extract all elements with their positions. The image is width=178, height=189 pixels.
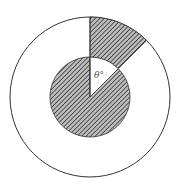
concentric-circles-diagram: θ°: [0, 0, 178, 189]
angle-theta-label: θ°: [94, 70, 104, 80]
